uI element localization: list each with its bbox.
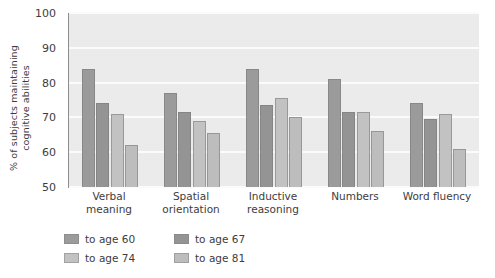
legend-swatch-icon [174,234,189,244]
bar [357,112,370,187]
x-tick-label: Inductive reasoning [232,190,314,216]
bar [342,112,355,187]
y-axis-tick-labels: 5060708090100 [0,0,62,200]
legend-item[interactable]: to age 67 [174,231,245,247]
y-tick-label: 60 [42,147,56,158]
bar [82,69,95,187]
x-tick-label: Verbal meaning [68,190,150,216]
chart-legend: to age 60to age 67to age 74to age 81 [64,231,314,273]
y-tick-label: 50 [42,182,56,193]
x-tick-label: Numbers [314,190,396,203]
bar [164,93,177,187]
bar [111,114,124,187]
bar [246,69,259,187]
bar [439,114,452,187]
bar [207,133,220,187]
bar-group [397,13,479,187]
bar-group [315,13,397,187]
y-tick-label: 90 [42,43,56,54]
plot-area [68,13,479,188]
bar-group [233,13,315,187]
x-tick-label: Spatial orientation [150,190,232,216]
y-tick-label: 70 [42,112,56,123]
bar [178,112,191,187]
bar [193,121,206,187]
bar [453,149,466,187]
legend-item[interactable]: to age 60 [64,231,135,247]
y-tick-label: 80 [42,78,56,89]
bar-group [69,13,151,187]
bar [328,79,341,187]
bar [125,145,138,187]
bar-group [151,13,233,187]
bar-chart-figure: % of subjects maintaining cognitive abil… [0,0,495,278]
legend-item[interactable]: to age 81 [174,250,245,266]
bar [410,103,423,187]
bar [289,117,302,187]
bar [371,131,384,187]
x-tick-label: Word fluency [396,190,478,203]
legend-swatch-icon [174,253,189,263]
x-axis-tick-labels: Verbal meaningSpatial orientationInducti… [68,190,478,222]
legend-label: to age 67 [195,234,245,245]
bar [96,103,109,187]
legend-item[interactable]: to age 74 [64,250,135,266]
legend-label: to age 81 [195,253,245,264]
y-tick-label: 100 [35,8,56,19]
bar [424,119,437,187]
bar [275,98,288,187]
legend-label: to age 60 [85,234,135,245]
legend-label: to age 74 [85,253,135,264]
legend-swatch-icon [64,253,79,263]
bar [260,105,273,187]
legend-swatch-icon [64,234,79,244]
